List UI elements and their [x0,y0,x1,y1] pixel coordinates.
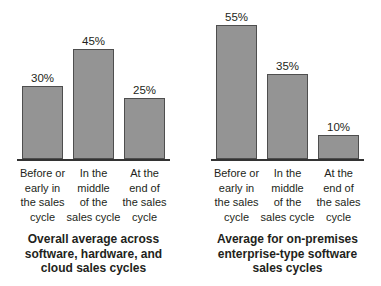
chart-caption-line: Overall average across [17,232,170,247]
bar-column: 10% [313,121,364,159]
chart-caption-line: Average for on-premises [211,232,364,247]
bar-column: 35% [262,60,313,159]
category-label-line: In the [274,166,302,181]
category-label-line: In the [80,166,108,181]
category-label-line: of the [80,195,108,210]
category-label-line: the sales [122,195,166,210]
category-labels-row: Before orearly inthe salescycleIn themid… [17,161,170,224]
category-label-line: middle [271,181,303,196]
chart-overall-average: 30%45%25% Before orearly inthe salescycl… [17,0,170,276]
category-label-line: cycle [30,210,55,225]
category-label-line: cycle [224,210,249,225]
category-label-line: Before or [20,166,65,181]
category-label: Before orearly inthe salescycle [17,166,68,224]
category-label-line: sales cycle [67,210,121,225]
category-label-line: cycle [326,210,351,225]
category-label: At theend ofthe salescycle [119,166,170,224]
category-label: In themiddleof thesales cycle [262,166,313,224]
category-label-line: the sales [316,195,360,210]
chart-caption-line: cloud sales cycles [17,261,170,276]
category-label-line: middle [77,181,109,196]
bar-10% [318,135,359,159]
category-label: At theend ofthe salescycle [313,166,364,224]
category-label-line: the sales [20,195,64,210]
category-label: In themiddleof thesales cycle [68,166,119,224]
bar-25% [124,98,165,159]
category-label-line: cycle [132,210,157,225]
category-label-line: end of [323,181,354,196]
plot-area: 55%35%10% [211,0,364,159]
chart-caption-line: software, hardware, and [17,247,170,262]
category-label-line: Before or [214,166,259,181]
category-label-line: At the [324,166,353,181]
chart-caption-line: enterprise-type software [211,247,364,262]
bar-value-label: 25% [133,84,156,96]
category-label-line: end of [129,181,160,196]
dual-bar-chart-figure: 30%45%25% Before orearly inthe salescycl… [0,0,381,286]
bar-value-label: 35% [276,60,299,72]
chart-caption: Overall average acrosssoftware, hardware… [17,232,170,276]
plot-area: 30%45%25% [17,0,170,159]
bar-column: 30% [17,72,68,159]
bar-value-label: 10% [327,121,350,133]
bar-column: 55% [211,11,262,159]
chart-caption: Average for on-premisesenterprise-type s… [211,232,364,276]
bar-value-label: 45% [82,35,105,47]
bar-value-label: 55% [225,11,248,23]
bar-55% [216,25,257,159]
category-label-line: sales cycle [261,210,315,225]
chart-caption-line: sales cycles [211,261,364,276]
bar-45% [73,49,114,159]
bar-35% [267,74,308,159]
category-labels-row: Before orearly inthe salescycleIn themid… [211,161,364,224]
category-label: Before orearly inthe salescycle [211,166,262,224]
category-label-line: At the [130,166,159,181]
bar-column: 45% [68,35,119,159]
category-label-line: early in [219,181,254,196]
bar-column: 25% [119,84,170,159]
category-label-line: of the [274,195,302,210]
category-label-line: early in [25,181,60,196]
chart-on-premises: 55%35%10% Before orearly inthe salescycl… [211,0,364,276]
bar-30% [22,86,63,159]
category-label-line: the sales [214,195,258,210]
bar-value-label: 30% [31,72,54,84]
